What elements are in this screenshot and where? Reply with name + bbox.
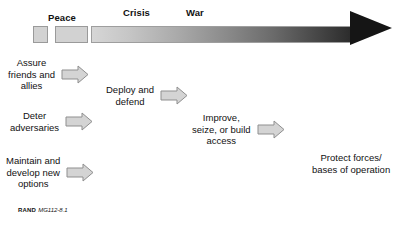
spectrum-segment-peace-wide	[55, 26, 88, 43]
stage-label: Protect forces/ bases of operation	[312, 152, 390, 175]
spectrum-segment-peace-small	[33, 26, 48, 43]
spectrum-arrowhead-icon	[350, 11, 392, 45]
spectrum-label-crisis: Crisis	[123, 7, 150, 18]
stage-improve-seize-or-build-access: Improve, seize, or build access	[192, 112, 285, 147]
stage-deploy-and-defend: Deploy and defend	[106, 84, 188, 107]
credit-organization: RAND	[18, 207, 36, 213]
stage-label: Improve, seize, or build access	[192, 112, 251, 147]
stage-label: Deploy and defend	[106, 84, 154, 107]
stage-maintain-and-develop-new-options: Maintain and develop new options	[6, 155, 94, 190]
figure-credit: RANDMG112-8.1	[18, 207, 68, 213]
spectrum-of-conflict-diagram: Peace Crisis War Assure friends and alli…	[0, 0, 414, 226]
spectrum-label-war: War	[186, 7, 204, 18]
credit-identifier: MG112-8.1	[38, 207, 68, 213]
spectrum-gradient-bar	[91, 26, 353, 43]
stage-label: Deter adversaries	[10, 110, 59, 133]
block-arrow-right-icon	[65, 112, 93, 131]
spectrum-label-peace: Peace	[48, 12, 76, 23]
block-arrow-right-icon	[160, 86, 188, 105]
stage-assure-friends-and-allies: Assure friends and allies	[8, 57, 89, 92]
block-arrow-right-icon	[61, 65, 89, 84]
stage-label: Assure friends and allies	[8, 57, 55, 92]
stage-protect-forces-bases-of-operation: Protect forces/ bases of operation	[312, 152, 390, 175]
block-arrow-right-icon	[66, 163, 94, 182]
stage-deter-adversaries: Deter adversaries	[10, 110, 93, 133]
stage-label: Maintain and develop new options	[6, 155, 60, 190]
block-arrow-right-icon	[257, 120, 285, 139]
